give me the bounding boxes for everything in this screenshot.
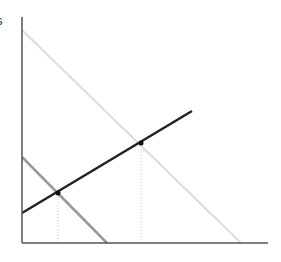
black-line <box>22 111 192 213</box>
intersection-low-dot <box>56 191 61 196</box>
light-gray-line <box>22 30 241 243</box>
diagram-canvas <box>0 0 281 262</box>
intersection-high-dot <box>139 141 144 146</box>
